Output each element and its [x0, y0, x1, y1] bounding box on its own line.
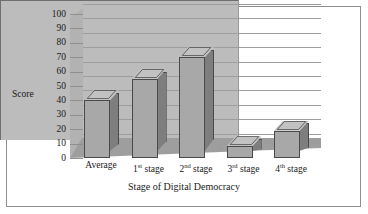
figure: 1009080706050403020100 Score Average1st …	[0, 0, 368, 214]
bar-side-face	[205, 50, 214, 151]
bar-side-face	[158, 72, 167, 151]
y-axis-tick-label: 50	[40, 82, 66, 91]
bar-4th-stage	[274, 121, 300, 158]
x-axis-tick-label: 4th stage	[261, 160, 321, 175]
side-wall-tick	[70, 62, 83, 73]
bar-side-face	[110, 93, 119, 151]
x-axis-title: Stage of Digital Democracy	[0, 181, 368, 192]
y-axis-title: Score	[12, 89, 34, 99]
side-wall-tick	[70, 4, 83, 15]
bar-front-face	[179, 57, 205, 158]
chart-plot-area: 1009080706050403020100 Score Average1st …	[0, 0, 368, 214]
side-wall-tick	[70, 76, 83, 87]
bar-2nd-stage	[179, 47, 205, 158]
y-axis-tick-label: 0	[40, 154, 66, 163]
gridline	[83, 18, 321, 19]
gridline	[83, 4, 321, 5]
y-axis-tick-label: 10	[40, 139, 66, 148]
bar-front-face	[227, 146, 253, 158]
side-wall-tick	[70, 148, 83, 159]
y-axis-tick-label: 90	[40, 24, 66, 33]
y-axis-tick-label: 70	[40, 53, 66, 62]
side-wall-tick	[70, 134, 83, 145]
y-axis-tick-label: 100	[40, 10, 66, 19]
y-axis-tick-label: 80	[40, 38, 66, 47]
side-wall-tick	[70, 47, 83, 58]
bar-1st-stage	[132, 69, 158, 158]
side-wall-tick	[70, 119, 83, 130]
bar-average	[84, 90, 110, 158]
bar-front-face	[132, 79, 158, 158]
x-axis-tick-labels: Average1st stage2nd stage3rd stage4th st…	[70, 160, 326, 176]
gridline	[83, 33, 321, 34]
side-wall-tick	[70, 18, 83, 29]
side-wall-tick	[70, 33, 83, 44]
y-axis-tick-label: 40	[40, 96, 66, 105]
y-axis-tick-label: 20	[40, 125, 66, 134]
bar-front-face	[84, 100, 110, 158]
side-wall-tick	[70, 90, 83, 101]
y-axis-tick-label: 30	[40, 110, 66, 119]
side-wall-tick	[70, 105, 83, 116]
bar-front-face	[274, 131, 300, 158]
bar-3rd-stage	[227, 136, 253, 158]
y-axis-tick-label: 60	[40, 67, 66, 76]
